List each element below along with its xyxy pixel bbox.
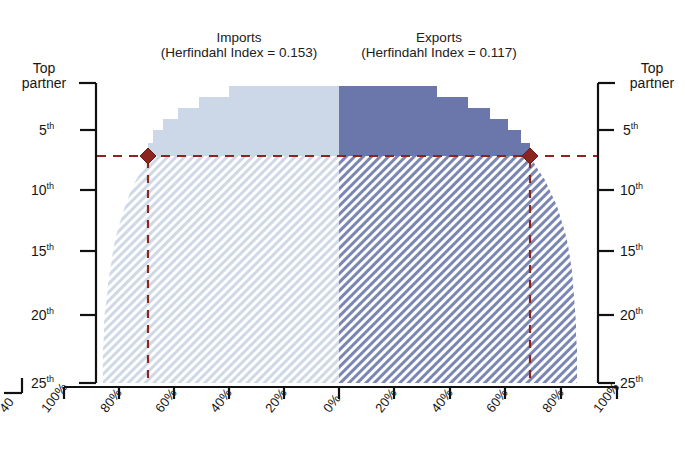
y-axis-right-top-line2: partner (630, 75, 674, 91)
exports-header: Exports (Herfindahl Index = 0.117) (339, 30, 539, 60)
exports-title: Exports (339, 30, 539, 45)
imports-title: Imports (139, 30, 339, 45)
y-axis-left-tick-20-value: 20 (31, 307, 47, 323)
y-axis-right-tick-20-suffix: th (636, 306, 644, 316)
y-axis-right-tick-5-suffix: th (631, 121, 639, 131)
y-axis-left-tick-20: 20th (31, 306, 54, 323)
y-axis-left-tick-25-suffix: th (47, 374, 55, 384)
y-axis-right-tick-15-suffix: th (636, 242, 644, 252)
y-axis-right-tick-10-suffix: th (636, 181, 644, 191)
y-axis-left-tick-5: 5th (39, 121, 54, 138)
imports-hatched-area (103, 156, 339, 383)
y-axis-right-tick-5: 5th (623, 121, 638, 138)
clipped-neighbor-axis (4, 378, 22, 393)
chart-figure: Imports (Herfindahl Index = 0.153) Expor… (0, 0, 685, 450)
y-axis-left-top-line2: partner (22, 75, 66, 91)
y-axis-right-tick-15-value: 15 (620, 243, 636, 259)
y-axis-left-tick-15: 15th (31, 242, 54, 259)
y-axis-left-tick-15-suffix: th (47, 242, 55, 252)
imports-solid-area (148, 86, 339, 156)
exports-subtitle: (Herfindahl Index = 0.117) (339, 45, 539, 60)
y-axis-right-tick-20: 20th (620, 306, 643, 323)
y-axis-left-tick-10: 10th (31, 181, 54, 198)
imports-subtitle: (Herfindahl Index = 0.153) (139, 45, 339, 60)
y-axis-right-tick-25: 25th (620, 374, 643, 391)
y-axis-right-tick-5-value: 5 (623, 122, 631, 138)
y-axis-right (598, 83, 615, 383)
y-axis-right-tick-10: 10th (620, 181, 643, 198)
y-axis-left-tick-15-value: 15 (31, 243, 47, 259)
y-axis-left-tick-10-suffix: th (47, 181, 55, 191)
y-axis-left-tick-20-suffix: th (47, 306, 55, 316)
chart-canvas (0, 0, 685, 450)
y-axis-right-tick-10-value: 10 (620, 182, 636, 198)
y-axis-right-tick-25-suffix: th (636, 374, 644, 384)
y-axis-right-top-label: Top partner (620, 61, 684, 90)
y-axis-left (79, 83, 96, 383)
y-axis-left-tick-5-suffix: th (47, 121, 55, 131)
y-axis-left-top-label: Top partner (12, 61, 76, 90)
y-axis-left-tick-25-value: 25 (31, 375, 47, 391)
exports-solid-area (339, 86, 530, 156)
exports-hatched-area (339, 156, 577, 383)
y-axis-right-tick-20-value: 20 (620, 307, 636, 323)
y-axis-left-tick-5-value: 5 (39, 122, 47, 138)
imports-header: Imports (Herfindahl Index = 0.153) (139, 30, 339, 60)
y-axis-right-tick-15: 15th (620, 242, 643, 259)
y-axis-left-tick-10-value: 10 (31, 182, 47, 198)
